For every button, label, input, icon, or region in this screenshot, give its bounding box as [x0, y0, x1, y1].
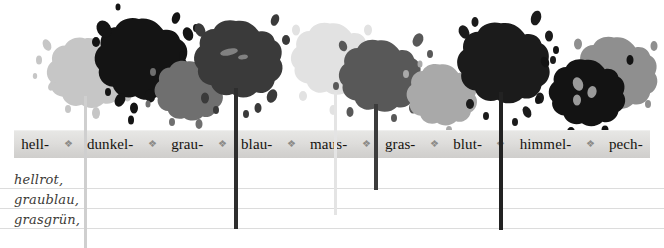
- prefix-label-gras[interactable]: gras-: [385, 136, 416, 153]
- stem-maus: [334, 92, 337, 215]
- prefix-label-blut[interactable]: blut-: [453, 136, 482, 153]
- diamond-separator-icon: ❖: [430, 139, 439, 149]
- diamond-separator-icon: ❖: [586, 139, 595, 149]
- ruled-line-2: [0, 208, 664, 209]
- diamond-separator-icon: ❖: [218, 139, 227, 149]
- diamond-separator-icon: ❖: [287, 139, 296, 149]
- prefix-label-himmel[interactable]: himmel-: [520, 136, 572, 153]
- ruled-line-1: [0, 188, 664, 189]
- diamond-separator-icon: ❖: [148, 139, 157, 149]
- handwritten-note-2: graublau,: [14, 192, 79, 207]
- stem-blau: [234, 88, 238, 229]
- diamond-separator-icon: ❖: [64, 139, 73, 149]
- handwritten-note-1: hellrot,: [14, 172, 63, 187]
- prefix-label-dunkel[interactable]: dunkel-: [87, 136, 134, 153]
- prefix-label-blau[interactable]: blau-: [241, 136, 272, 153]
- prefix-label-maus[interactable]: maus-: [310, 136, 347, 153]
- ruled-line-3: [0, 228, 664, 229]
- stem-hell: [84, 96, 87, 248]
- prefix-label-hell[interactable]: hell-: [21, 136, 49, 153]
- diamond-separator-icon: ❖: [362, 139, 371, 149]
- worksheet-canvas: hell- ❖ dunkel- ❖ grau- ❖ blau- ❖ maus- …: [0, 0, 664, 248]
- handwritten-note-3: grasgrün,: [14, 212, 80, 227]
- stem-gras: [374, 104, 378, 190]
- colour-prefix-bar: hell- ❖ dunkel- ❖ grau- ❖ blau- ❖ maus- …: [14, 130, 650, 158]
- stem-himmel: [499, 92, 503, 230]
- prefix-label-pech[interactable]: pech-: [609, 136, 643, 153]
- ink-splat-illustration: [0, 0, 664, 140]
- prefix-label-grau[interactable]: grau-: [171, 136, 203, 153]
